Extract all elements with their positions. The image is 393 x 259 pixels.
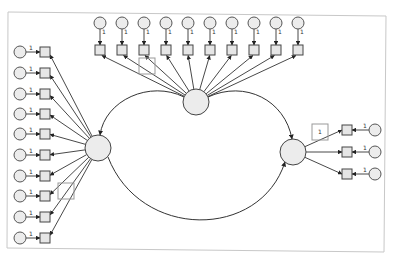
loading-label-top-6: 1 [212, 28, 216, 35]
sem-diagram: 111111111111111111111111 [0, 0, 393, 259]
observed-left-3 [40, 89, 50, 99]
error-term-left-4 [14, 108, 26, 120]
observed-top-4 [161, 45, 171, 55]
loading-label-right-3: 1 [363, 166, 367, 173]
observed-left-4 [40, 109, 50, 119]
error-term-left-3 [14, 88, 26, 100]
latent-factor-f-top [183, 89, 209, 115]
observed-top-6 [205, 45, 215, 55]
loading-label-left-9: 1 [29, 209, 33, 216]
observed-right-3 [342, 169, 352, 179]
loading-label-left-8: 1 [29, 188, 33, 195]
error-term-left-5 [14, 128, 26, 140]
observed-top-2 [117, 45, 127, 55]
latent-factor-f-right [280, 139, 306, 165]
loading-label-top-7: 1 [234, 28, 238, 35]
error-term-right-1 [369, 124, 381, 136]
error-term-left-2 [14, 67, 26, 79]
highlight-box-label-3: 1 [318, 128, 322, 135]
observed-left-1 [40, 47, 50, 57]
observed-left-7 [40, 171, 50, 181]
observed-top-10 [293, 45, 303, 55]
loading-label-left-1: 1 [29, 44, 33, 51]
observed-top-7 [227, 45, 237, 55]
observed-top-8 [249, 45, 259, 55]
loading-label-top-5: 1 [190, 28, 194, 35]
observed-top-1 [95, 45, 105, 55]
error-term-left-1 [14, 46, 26, 58]
loading-label-left-4: 1 [29, 106, 33, 113]
error-term-left-6 [14, 149, 26, 161]
loading-label-left-3: 1 [29, 86, 33, 93]
observed-top-3 [139, 45, 149, 55]
loading-label-top-4: 1 [168, 28, 172, 35]
error-term-left-10 [14, 232, 26, 244]
loading-label-right-1: 1 [363, 122, 367, 129]
observed-right-1 [342, 125, 352, 135]
error-term-left-7 [14, 170, 26, 182]
loading-label-left-2: 1 [29, 65, 33, 72]
observed-left-6 [40, 150, 50, 160]
loading-label-left-7: 1 [29, 168, 33, 175]
observed-top-9 [271, 45, 281, 55]
observed-left-5 [40, 129, 50, 139]
loading-label-top-2: 1 [124, 28, 128, 35]
loading-label-left-10: 1 [29, 230, 33, 237]
loading-label-top-9: 1 [278, 28, 282, 35]
loading-label-top-10: 1 [300, 28, 304, 35]
loading-label-top-1: 1 [102, 28, 106, 35]
path-diagram-canvas: 111111111111111111111111 [0, 0, 393, 259]
error-term-left-8 [14, 190, 26, 202]
observed-right-2 [342, 147, 352, 157]
loading-label-left-5: 1 [29, 126, 33, 133]
observed-left-9 [40, 212, 50, 222]
loading-label-right-2: 1 [363, 144, 367, 151]
error-term-left-9 [14, 211, 26, 223]
observed-left-10 [40, 233, 50, 243]
observed-left-8 [40, 191, 50, 201]
diagram-frame [7, 12, 386, 252]
latent-factor-f-left [85, 135, 111, 161]
error-term-right-3 [369, 168, 381, 180]
loading-label-top-8: 1 [256, 28, 260, 35]
observed-top-5 [183, 45, 193, 55]
loading-label-top-3: 1 [146, 28, 150, 35]
loading-label-left-6: 1 [29, 147, 33, 154]
observed-left-2 [40, 68, 50, 78]
error-term-right-2 [369, 146, 381, 158]
